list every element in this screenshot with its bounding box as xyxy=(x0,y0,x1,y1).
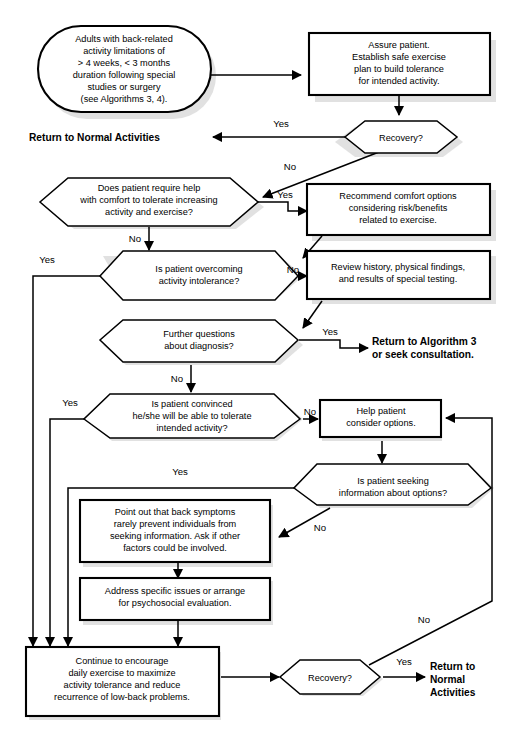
node-recovery-second: Recovery? xyxy=(280,660,380,694)
edge-label-recovery1-no: No xyxy=(284,161,296,172)
edge-label-require-help-no: No xyxy=(129,233,141,244)
node-overcoming: Is patient overcoming activity intoleran… xyxy=(100,251,298,300)
node-point-line-0: Point out that back symptoms xyxy=(115,507,236,517)
edge-label-recovery1-yes: Yes xyxy=(273,118,289,129)
node-help-consider: Help patient consider options. xyxy=(320,400,441,437)
node-recovery2-line-0: Recovery? xyxy=(308,673,352,683)
flowchart-diagram: Adults with back-related activity limita… xyxy=(0,0,522,740)
edge-label-overcoming-yes: Yes xyxy=(39,254,55,265)
edge-label-convinced-yes: Yes xyxy=(62,397,78,408)
node-overcoming-line-1: activity intolerance? xyxy=(159,276,240,286)
node-help-line-1: consider options. xyxy=(346,418,415,428)
node-convinced-line-2: intended activity? xyxy=(157,423,228,433)
node-address-issues: Address specific issues or arrange for p… xyxy=(80,578,270,620)
node-start-line-4: studies or surgery xyxy=(87,82,160,92)
node-point-line-3: factors could be involved. xyxy=(123,543,227,553)
terminal-return-algorithm3-line-0: Return to Algorithm 3 xyxy=(372,336,477,347)
node-assure-patient: Assure patient. Establish safe exercise … xyxy=(309,33,490,95)
node-help-line-0: Help patient xyxy=(356,406,405,416)
terminal-return-normal-top: Return to Normal Activities xyxy=(29,132,160,143)
node-review-line-1: and results of special testing. xyxy=(339,274,457,284)
node-layer: Adults with back-related activity limita… xyxy=(26,26,491,716)
edge-label-further-no: No xyxy=(171,373,183,384)
node-continue-line-2: activity tolerance and reduce xyxy=(64,680,181,690)
node-recovery1-line-0: Recovery? xyxy=(379,133,423,143)
node-overcoming-line-0: Is patient overcoming xyxy=(155,264,242,274)
node-start-line-5: (see Algorithms 3, 4). xyxy=(81,94,168,104)
node-convinced-line-1: he/she will be able to tolerate xyxy=(132,411,251,421)
node-comfort-line-0: Recommend comfort options xyxy=(339,191,457,201)
node-start-line-3: duration following special xyxy=(73,70,176,80)
edge-label-require-help-yes: Yes xyxy=(277,189,293,200)
edge-label-convinced-no: No xyxy=(304,406,316,417)
node-point-line-1: rarely prevent individuals from xyxy=(114,519,237,529)
node-comfort-line-2: related to exercise. xyxy=(359,215,437,225)
edge-label-further-yes: Yes xyxy=(322,326,338,337)
node-start: Adults with back-related activity limita… xyxy=(38,26,211,112)
edge-label-recovery2-yes: Yes xyxy=(396,656,412,667)
node-further-line-0: Further questions xyxy=(163,329,235,339)
node-assure-line-1: Establish safe exercise xyxy=(352,52,446,62)
node-seeking-info: Is patient seeking information about opt… xyxy=(294,464,491,505)
node-assure-line-3: for intended activity. xyxy=(358,76,439,86)
node-review-line-0: Review history, physical findings, xyxy=(331,262,465,272)
node-comfort-options: Recommend comfort options considering ri… xyxy=(307,184,490,235)
node-seeking-line-1: information about options? xyxy=(339,488,447,498)
node-assure-line-0: Assure patient. xyxy=(368,40,429,50)
terminal-return-normal-bottom-line-1: Normal xyxy=(430,674,465,685)
node-further-questions: Further questions about diagnosis? xyxy=(100,320,298,362)
edge-label-recovery2-no: No xyxy=(418,614,430,625)
node-continue-line-1: daily exercise to maximize xyxy=(68,668,175,678)
node-require-help-line-2: activity and exercise? xyxy=(105,207,193,217)
node-address-line-1: for psychosocial evaluation. xyxy=(119,598,232,608)
node-start-line-2: > 4 weeks, < 3 months xyxy=(78,58,171,68)
node-convinced-line-0: Is patient convinced xyxy=(151,399,232,409)
node-continue-line-0: Continue to encourage xyxy=(76,656,169,666)
node-require-help: Does patient require help with comfort t… xyxy=(40,178,258,226)
edge-label-overcoming-no: No xyxy=(287,264,299,275)
node-continue-encourage: Continue to encourage daily exercise to … xyxy=(26,647,219,716)
node-further-line-1: about diagnosis? xyxy=(164,341,233,351)
terminal-return-normal-bottom-line-0: Return to xyxy=(430,661,475,672)
node-address-line-0: Address specific issues or arrange xyxy=(105,586,245,596)
node-require-help-line-1: with comfort to tolerate increasing xyxy=(79,195,217,205)
node-comfort-line-1: considering risk/benefits xyxy=(349,203,448,213)
edge-label-seeking-no: No xyxy=(314,522,326,533)
terminal-return-normal-bottom-line-2: Activities xyxy=(430,687,476,698)
node-convinced: Is patient convinced he/she will be able… xyxy=(84,394,300,438)
node-start-line-0: Adults with back-related xyxy=(75,34,173,44)
node-assure-line-2: plan to build tolerance xyxy=(354,64,444,74)
node-seeking-line-0: Is patient seeking xyxy=(357,476,429,486)
node-continue-line-3: recurrence of low-back problems. xyxy=(54,692,190,702)
node-review-history: Review history, physical findings, and r… xyxy=(307,251,490,299)
node-point-out: Point out that back symptoms rarely prev… xyxy=(80,500,270,562)
node-recovery-first: Recovery? xyxy=(345,121,457,153)
node-start-line-1: activity limitations of xyxy=(83,46,165,56)
node-require-help-line-0: Does patient require help xyxy=(98,183,201,193)
edge-label-seeking-yes: Yes xyxy=(172,466,188,477)
terminal-return-algorithm3-line-1: or seek consultation. xyxy=(372,349,474,360)
node-point-line-2: seeking information. Ask if other xyxy=(110,531,240,541)
